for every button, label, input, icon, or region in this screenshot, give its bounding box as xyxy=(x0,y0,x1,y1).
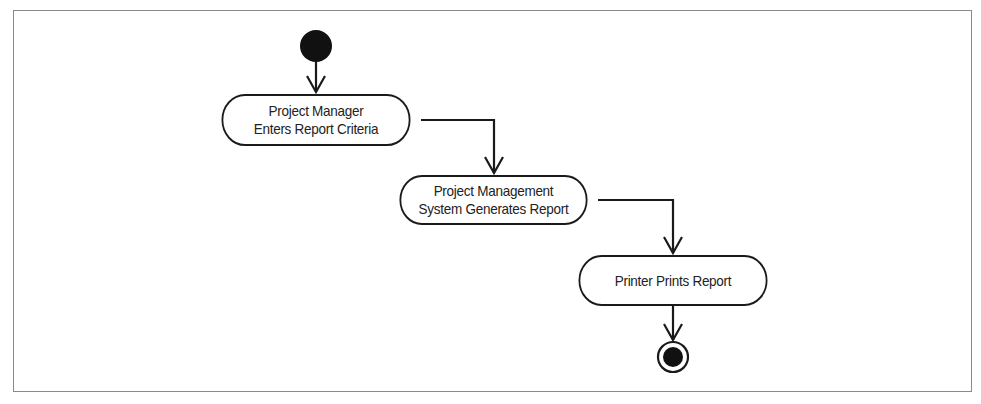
activity-label-line2: Enters Report Criteria xyxy=(254,120,379,138)
edge-activity-2-to-activity-3 xyxy=(598,200,673,253)
activity-enter-report-criteria: Project Manager Enters Report Criteria xyxy=(222,94,411,146)
activity-print-report: Printer Prints Report xyxy=(579,255,768,306)
activity-label-line2: System Generates Report xyxy=(419,200,569,218)
final-node-inner-icon xyxy=(663,347,683,367)
initial-node-icon xyxy=(300,30,332,62)
edge-activity-1-to-activity-2 xyxy=(421,120,494,173)
activity-label-line1: Project Management xyxy=(434,182,554,200)
activity-generate-report: Project Management System Generates Repo… xyxy=(399,175,587,225)
activity-label-line1: Printer Prints Report xyxy=(615,272,732,290)
activity-label-line1: Project Manager xyxy=(268,102,363,120)
